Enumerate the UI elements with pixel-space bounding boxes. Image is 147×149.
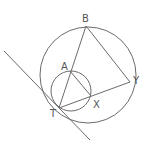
point-label-A: A [61, 61, 68, 72]
point-label-Y: Y [132, 75, 140, 86]
small-circle [51, 71, 91, 111]
tangent-line-at-T [4, 51, 90, 140]
point-label-B: B [82, 13, 89, 24]
point-label-T: T [49, 108, 57, 119]
point-label-X: X [93, 99, 100, 110]
segment-AX [70, 71, 91, 96]
geometry-diagram: BATXY [0, 0, 147, 149]
segment-BY [86, 26, 130, 82]
